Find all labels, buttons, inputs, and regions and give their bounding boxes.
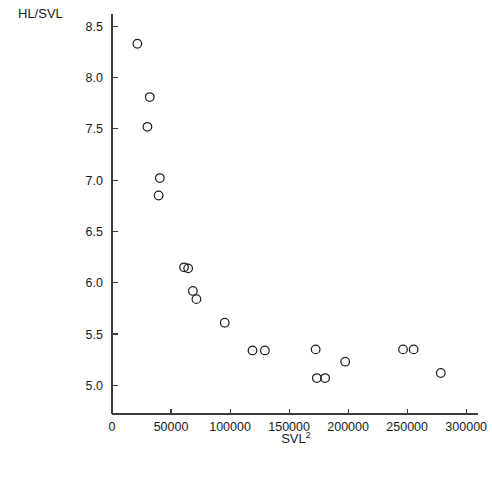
y-tick-label: 5.5 — [86, 328, 103, 342]
data-point — [313, 374, 322, 383]
data-point — [156, 174, 165, 183]
data-point — [133, 39, 142, 48]
y-tick-label: 8.0 — [86, 71, 103, 85]
y-tick-label: 5.0 — [86, 379, 103, 393]
data-point — [399, 345, 408, 354]
x-tick-label: 300000 — [445, 420, 487, 434]
y-tick-label: 8.5 — [86, 20, 103, 34]
x-tick-label: 250000 — [386, 420, 428, 434]
axes-group — [112, 14, 478, 414]
x-tick-label: 200000 — [327, 420, 369, 434]
y-tick-label: 7.0 — [86, 174, 103, 188]
y-tick-label: 7.5 — [86, 122, 103, 136]
tick-labels-group: 0500001000001500002000002500003000005.05… — [86, 20, 487, 434]
data-point — [311, 345, 320, 354]
ticks-group — [112, 26, 466, 414]
data-point — [248, 346, 257, 355]
x-tick-label: 0 — [109, 420, 116, 434]
scatter-plot-figure: 0500001000001500002000002500003000005.05… — [0, 0, 492, 478]
data-point — [220, 318, 229, 327]
data-point — [143, 123, 152, 132]
data-point — [145, 93, 154, 102]
x-tick-label: 50000 — [154, 420, 189, 434]
plot-canvas: 0500001000001500002000002500003000005.05… — [0, 0, 492, 478]
data-point — [189, 287, 198, 296]
data-point — [437, 369, 446, 378]
x-axis-title-exponent: 2 — [306, 430, 311, 440]
y-axis-title: HL/SVL — [18, 6, 63, 21]
data-point — [192, 295, 201, 304]
x-axis-title: SVL2 — [281, 430, 311, 446]
data-point — [154, 191, 163, 200]
x-axis-title-base: SVL — [281, 431, 306, 446]
y-tick-label: 6.0 — [86, 276, 103, 290]
data-point — [409, 345, 418, 354]
data-point — [341, 357, 350, 366]
data-point — [261, 346, 270, 355]
data-points-group — [133, 39, 445, 382]
y-tick-label: 6.5 — [86, 225, 103, 239]
data-point — [321, 374, 330, 383]
x-tick-label: 100000 — [209, 420, 251, 434]
